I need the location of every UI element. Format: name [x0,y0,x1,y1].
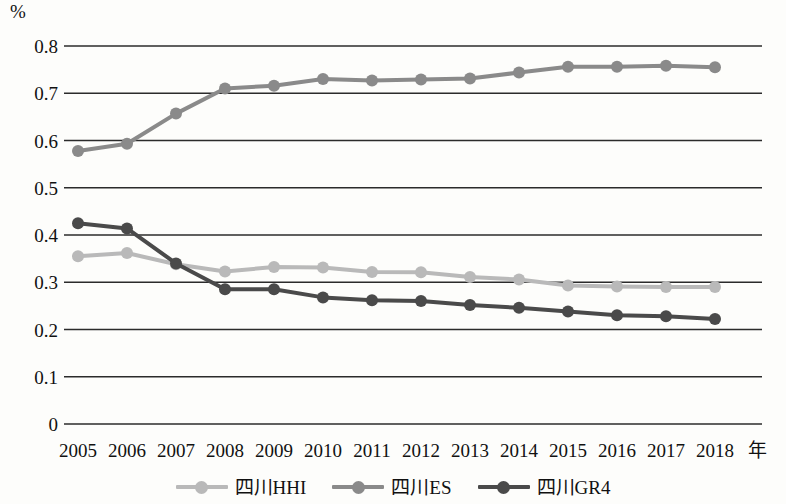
data-point [709,313,721,325]
data-point [415,266,427,278]
data-point [464,299,476,311]
data-point [170,108,182,120]
data-point [415,74,427,86]
x-axis-tick: 2011 [353,440,390,462]
y-axis-tick: 0.6 [6,131,58,150]
legend-label: 四川ES [391,478,451,497]
x-axis-tick: 2009 [255,440,293,462]
data-point [562,61,574,73]
data-point [268,283,280,295]
data-point [366,75,378,87]
x-axis-tick: 2006 [108,440,146,462]
data-point [709,61,721,73]
legend-item[interactable]: 四川HHI [176,478,307,497]
y-axis-tick: 0.2 [6,320,58,339]
y-axis-tick: 0 [6,415,58,434]
y-axis-tick: 0.4 [6,226,58,245]
legend-marker-icon [176,480,228,494]
x-axis-tick: 2012 [402,440,440,462]
y-axis-tick: 0.5 [6,178,58,197]
x-axis-tick: 2010 [304,440,342,462]
legend-item[interactable]: 四川ES [332,478,451,497]
series-四川ES [72,60,721,157]
data-point [219,265,231,277]
data-point [660,281,672,293]
data-point [317,73,329,85]
data-point [611,61,623,73]
chart-legend: 四川HHI四川ES四川GR4 [0,472,786,502]
data-point [562,306,574,318]
data-point [415,295,427,307]
x-axis-tick: 2013 [451,440,489,462]
legend-item[interactable]: 四川GR4 [478,478,611,497]
data-point [464,271,476,283]
series-layer [72,60,721,325]
x-axis-tick: 2018 [696,440,734,462]
data-point [121,138,133,150]
legend-label: 四川GR4 [537,478,611,497]
data-point [219,83,231,95]
data-point [366,266,378,278]
data-point [660,60,672,72]
data-point [72,145,84,157]
x-axis-tick: 2014 [500,440,538,462]
data-point [72,250,84,262]
legend-marker-icon [478,480,530,494]
y-axis-tick: 0.8 [6,37,58,56]
legend-label: 四川HHI [235,478,307,497]
x-axis-tick: 2008 [206,440,244,462]
plot-area [64,0,764,504]
data-point [72,217,84,229]
data-point [709,281,721,293]
data-point [513,273,525,285]
series-四川HHI [72,247,721,293]
data-point [268,261,280,273]
gridlines [64,46,762,424]
data-point [562,280,574,292]
data-point [513,302,525,314]
data-point [464,73,476,85]
data-point [170,257,182,269]
y-axis-tick: 0.3 [6,273,58,292]
legend-marker-icon [332,480,384,494]
x-axis-tick: 2007 [157,440,195,462]
y-axis-tick: 0.1 [6,367,58,386]
data-point [268,80,280,92]
data-point [366,294,378,306]
x-axis-tick: 2016 [598,440,636,462]
x-axis-tick-labels: 年 20052006200720082009201020112012201320… [0,440,786,466]
y-axis-tick-labels: 0.80.70.60.50.40.30.20.10 [0,0,58,504]
data-point [660,310,672,322]
data-point [513,67,525,79]
data-point [121,222,133,234]
data-point [317,291,329,303]
data-point [219,283,231,295]
data-point [611,281,623,293]
y-axis-tick: 0.7 [6,84,58,103]
x-axis-tick: 2015 [549,440,587,462]
x-axis-tick: 2005 [59,440,97,462]
x-axis-title: 年 [748,440,767,462]
data-point [317,262,329,274]
data-point [121,247,133,259]
line-chart: % 0.80.70.60.50.40.30.20.10 年 2005200620… [0,0,786,504]
data-point [611,309,623,321]
plot-svg [64,0,764,504]
x-axis-tick: 2017 [647,440,685,462]
